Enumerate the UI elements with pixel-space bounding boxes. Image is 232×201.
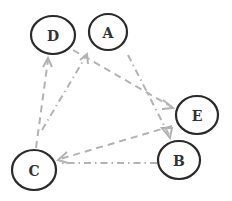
edge-d-to-e <box>73 50 173 109</box>
node-label: A <box>102 25 115 41</box>
graph-svg: D A E B C <box>0 0 232 201</box>
edges <box>36 50 173 163</box>
node-label: C <box>28 163 39 179</box>
node-label: E <box>192 108 203 124</box>
node-a[interactable]: A <box>89 14 127 50</box>
graph-canvas: D A E B C <box>0 0 232 201</box>
edge-c-to-d <box>36 58 52 148</box>
node-d[interactable]: D <box>31 16 75 54</box>
node-label: D <box>47 28 59 44</box>
node-label: B <box>173 153 185 169</box>
node-e[interactable]: E <box>176 96 218 134</box>
node-b[interactable]: B <box>158 141 200 179</box>
node-c[interactable]: C <box>12 150 56 190</box>
edge-c-to-a <box>42 54 88 130</box>
arrowhead-icon <box>162 100 173 109</box>
edge-e-to-c <box>58 126 172 163</box>
edge-a-to-b <box>128 55 172 138</box>
